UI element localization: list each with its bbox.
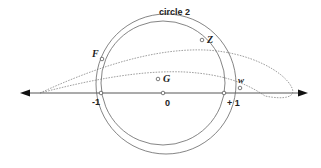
circle-2-label: circle 2 xyxy=(159,7,190,17)
label-F: F xyxy=(91,48,99,59)
dashed-curve-lower xyxy=(40,72,265,96)
right-arrow-icon xyxy=(298,90,308,97)
label-G: G xyxy=(163,73,171,84)
point-w xyxy=(238,86,242,90)
point-Z xyxy=(200,38,204,42)
label-Z: Z xyxy=(206,34,213,45)
circle-2 xyxy=(96,14,236,154)
point-F xyxy=(100,57,104,61)
tick-minus-one xyxy=(99,91,103,95)
tick-plus-one xyxy=(222,91,226,95)
tick-zero xyxy=(161,91,165,95)
diagram-canvas: circle 2 F G Z w -1 0 + 1 xyxy=(0,0,321,168)
tick-label-minus-one: -1 xyxy=(92,97,100,107)
point-G xyxy=(156,77,160,81)
tick-label-plus-one: + 1 xyxy=(227,98,240,108)
label-w: w xyxy=(238,75,245,85)
tick-label-zero: 0 xyxy=(165,98,170,108)
left-arrow-icon xyxy=(20,90,30,97)
